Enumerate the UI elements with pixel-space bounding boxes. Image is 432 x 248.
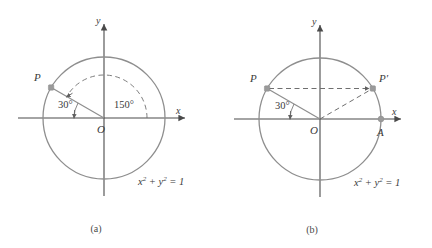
label-point-p-prime-b: P′ xyxy=(378,72,389,84)
label-point-a-b: A xyxy=(376,126,384,138)
point-p-marker-a xyxy=(48,85,53,90)
point-p-prime-marker-b xyxy=(370,86,375,91)
equation-a-equals: = 1 xyxy=(167,176,185,187)
label-y-axis-a: y xyxy=(95,15,101,26)
point-p-marker-b xyxy=(264,86,269,91)
angle-arrow-30-b xyxy=(290,111,291,120)
label-point-p-b: P xyxy=(249,72,257,84)
panel-a: P O x y 30° 150° x2 + y2 = 1 (a) xyxy=(18,15,185,235)
equation-b: x2 + y2 = 1 xyxy=(353,176,400,188)
figure-container: P O x y 30° 150° x2 + y2 = 1 (a) xyxy=(0,0,432,248)
label-origin-a: O xyxy=(97,123,105,135)
radius-op-prime-b xyxy=(320,89,373,120)
panel-b: P P′ A O x y 30° x2 + y2 = 1 (b) xyxy=(234,16,401,236)
label-angle-30-b: 30° xyxy=(275,100,290,111)
angle-arc-150-a xyxy=(67,75,147,118)
label-angle-30-a: 30° xyxy=(58,99,73,110)
label-angle-150-a: 150° xyxy=(114,99,134,110)
label-x-axis-b: x xyxy=(391,106,397,117)
equation-a-plus: + xyxy=(146,176,158,187)
label-origin-b: O xyxy=(310,124,318,136)
label-point-p-a: P xyxy=(33,71,41,83)
caption-a: (a) xyxy=(90,223,101,235)
label-x-axis-a: x xyxy=(175,105,181,116)
point-a-marker-b xyxy=(378,116,384,122)
caption-b: (b) xyxy=(306,224,318,236)
unit-circle-diagram: P O x y 30° 150° x2 + y2 = 1 (a) xyxy=(0,0,432,248)
equation-b-equals: = 1 xyxy=(383,177,401,188)
angle-arrow-30-a xyxy=(74,110,75,119)
label-y-axis-b: y xyxy=(311,16,317,27)
equation-b-plus: + xyxy=(362,177,374,188)
equation-a: x2 + y2 = 1 xyxy=(137,175,184,187)
